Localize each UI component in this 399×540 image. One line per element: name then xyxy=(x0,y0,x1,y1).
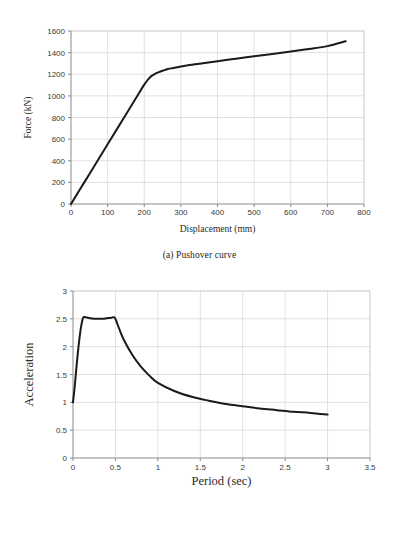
x-tick-label: 300 xyxy=(174,208,188,217)
y-tick-label: 0.5 xyxy=(56,426,68,435)
x-tick-label: 2 xyxy=(240,463,245,472)
y-tick-label: 0 xyxy=(63,454,68,463)
y-tick-label: 0 xyxy=(61,200,66,209)
x-tick-label: 200 xyxy=(138,208,152,217)
x-axis-title: Period (sec) xyxy=(191,474,251,488)
y-tick-label: 3 xyxy=(63,287,68,296)
x-tick-label: 1.5 xyxy=(195,463,207,472)
y-tick-label: 1400 xyxy=(47,49,65,58)
x-tick-label: 600 xyxy=(284,208,298,217)
x-tick-label: 800 xyxy=(357,208,371,217)
figure-pushover: 0200400600800100012001400160001002003004… xyxy=(0,0,399,270)
figure-a-caption: (a) Pushover curve xyxy=(0,250,399,260)
x-axis-title: Displacement (mm) xyxy=(180,224,256,235)
x-tick-label: 3.5 xyxy=(364,463,376,472)
y-tick-label: 800 xyxy=(52,114,66,123)
y-axis-title: Force (kN) xyxy=(23,97,34,139)
y-tick-label: 400 xyxy=(52,157,66,166)
y-tick-label: 1600 xyxy=(47,27,65,36)
figure-page: 0200400600800100012001400160001002003004… xyxy=(0,0,399,540)
x-tick-label: 700 xyxy=(321,208,335,217)
response-spectrum-chart: 00.511.522.5300.511.522.533.5Period (sec… xyxy=(0,270,399,540)
x-tick-label: 400 xyxy=(211,208,225,217)
y-tick-label: 600 xyxy=(52,135,66,144)
y-tick-label: 2.5 xyxy=(56,315,68,324)
x-tick-label: 0 xyxy=(69,208,74,217)
figure-response-spectrum: 00.511.522.5300.511.522.533.5Period (sec… xyxy=(0,270,399,540)
y-tick-label: 200 xyxy=(52,178,66,187)
response-spectrum-plot-svg: 00.511.522.5300.511.522.533.5Period (sec… xyxy=(0,270,399,518)
y-tick-label: 1000 xyxy=(47,92,65,101)
x-tick-label: 500 xyxy=(247,208,261,217)
x-tick-label: 0.5 xyxy=(110,463,122,472)
pushover-plot-svg: 0200400600800100012001400160001002003004… xyxy=(0,0,399,250)
y-tick-label: 2 xyxy=(63,343,68,352)
x-tick-label: 1 xyxy=(156,463,161,472)
y-tick-label: 1200 xyxy=(47,70,65,79)
x-tick-label: 2.5 xyxy=(280,463,292,472)
y-axis-title: Acceleration xyxy=(22,342,36,407)
pushover-chart: 0200400600800100012001400160001002003004… xyxy=(0,0,399,270)
y-tick-label: 1.5 xyxy=(56,371,68,380)
y-tick-label: 1 xyxy=(63,398,68,407)
x-tick-label: 3 xyxy=(325,463,330,472)
x-tick-label: 100 xyxy=(101,208,115,217)
x-tick-label: 0 xyxy=(71,463,76,472)
